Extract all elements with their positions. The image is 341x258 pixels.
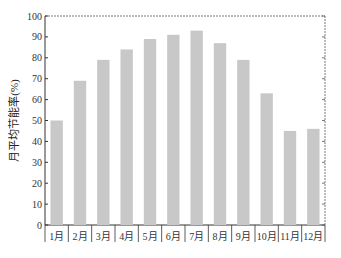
x-category-label: 8月 [213, 231, 228, 242]
bar [284, 131, 296, 225]
x-category-label: 9月 [236, 231, 251, 242]
x-category-label: 7月 [189, 231, 204, 242]
x-category-label: 12月 [303, 231, 323, 242]
bar [214, 43, 226, 225]
y-axis-label: 月平均节能率(%) [7, 79, 21, 162]
plot-frame [45, 16, 325, 225]
y-tick-label: 70 [32, 73, 42, 84]
y-tick-label: 30 [32, 157, 42, 168]
y-tick-label: 40 [32, 136, 42, 147]
bar [97, 60, 109, 225]
bar [307, 129, 319, 225]
x-category-label: 6月 [166, 231, 181, 242]
bar [190, 31, 202, 225]
bar [144, 39, 156, 225]
x-category-label: 1月 [49, 231, 64, 242]
x-category-label: 3月 [96, 231, 111, 242]
y-tick-label: 90 [32, 31, 42, 42]
x-category-label: 11月 [280, 231, 300, 242]
bar [237, 60, 249, 225]
x-category-label: 4月 [119, 231, 134, 242]
x-category-label: 5月 [143, 231, 158, 242]
y-tick-label: 60 [32, 94, 42, 105]
y-tick-label: 0 [37, 220, 42, 231]
bar [50, 121, 62, 226]
bar [74, 81, 86, 225]
x-category-label: 2月 [73, 231, 88, 242]
y-tick-label: 100 [27, 11, 42, 22]
bar [120, 49, 132, 225]
y-tick-label: 80 [32, 52, 42, 63]
y-tick-label: 10 [32, 199, 42, 210]
bar-chart: 0102030405060708090100 1月2月3月4月5月6月7月8月9… [0, 0, 341, 258]
bars [50, 31, 319, 225]
y-tick-label: 50 [32, 115, 42, 126]
bar [167, 35, 179, 225]
x-category-label: 10月 [257, 231, 277, 242]
y-tick-label: 20 [32, 178, 42, 189]
x-axis-categories: 1月2月3月4月5月6月7月8月9月10月11月12月 [45, 225, 325, 242]
bar [260, 93, 272, 225]
